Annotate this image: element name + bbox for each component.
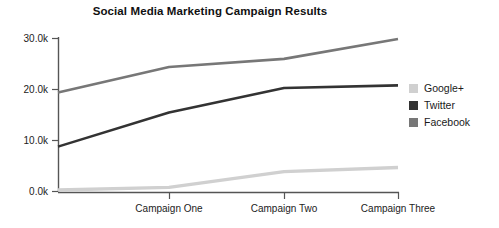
x-tick-label-campaign-three: Campaign Three (361, 203, 436, 214)
legend-swatch-facebook (409, 118, 418, 127)
y-tick-label-0k: 0.0k (29, 186, 49, 197)
chart-legend: Google+ Twitter Facebook (409, 80, 499, 131)
y-tick-label-30k: 30.0k (24, 33, 49, 44)
legend-label-twitter: Twitter (424, 100, 455, 111)
y-tick-label-10k: 10.0k (24, 135, 49, 146)
y-tick-label-20k: 20.0k (24, 84, 49, 95)
legend-item-facebook[interactable]: Facebook (409, 114, 499, 130)
series-line-google-plus (58, 168, 398, 190)
x-tick-label-campaign-two: Campaign Two (251, 203, 318, 214)
legend-swatch-google-plus (409, 84, 418, 93)
series-line-twitter (58, 85, 398, 146)
chart-container: Social Media Marketing Campaign Results … (0, 0, 499, 228)
series-line-facebook (58, 39, 398, 93)
y-axis-ticks (52, 39, 58, 192)
legend-label-google-plus: Google+ (424, 83, 464, 94)
legend-label-facebook: Facebook (424, 117, 470, 128)
legend-item-twitter[interactable]: Twitter (409, 97, 499, 113)
x-tick-label-campaign-one: Campaign One (135, 203, 203, 214)
legend-swatch-twitter (409, 101, 418, 110)
legend-item-google-plus[interactable]: Google+ (409, 80, 499, 96)
